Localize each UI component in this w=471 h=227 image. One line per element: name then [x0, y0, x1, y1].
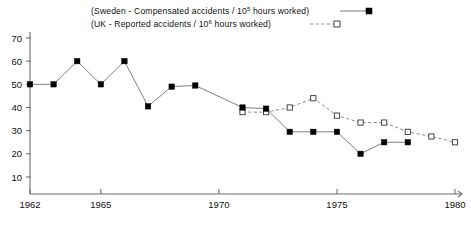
data-point-marker — [334, 129, 339, 134]
data-point-marker — [429, 134, 434, 139]
data-point-marker — [382, 120, 387, 125]
data-point-marker — [51, 82, 56, 87]
chart-legend: (Sweden - Compensated accidents / 105 ho… — [91, 6, 372, 29]
data-point-marker — [122, 58, 127, 63]
legend-uk-marker-sample — [334, 21, 340, 27]
data-point-marker — [287, 105, 292, 110]
data-point-marker — [169, 84, 174, 89]
y-tick-label: 70 — [11, 33, 22, 44]
data-point-marker — [145, 104, 150, 109]
series-uk — [240, 96, 458, 145]
x-tick-label: 1965 — [90, 199, 111, 210]
data-point-marker — [98, 82, 103, 87]
data-point-marker — [358, 151, 363, 156]
chart-page: (Sweden - Compensated accidents / 105 ho… — [0, 0, 471, 227]
legend-sweden-marker-sample — [366, 8, 372, 14]
y-tick-label: 10 — [11, 172, 22, 183]
accident-rate-line-chart: (Sweden - Compensated accidents / 105 ho… — [0, 0, 471, 227]
data-point-marker — [358, 120, 363, 125]
series-line — [243, 98, 456, 142]
legend-sweden-prefix: (Sweden - Compensated accidents / 10 — [91, 6, 247, 16]
x-tick-label: 1980 — [444, 199, 465, 210]
data-point-marker — [27, 82, 32, 87]
y-axis-ticks: 10203040506070 — [11, 33, 31, 183]
x-tick-label: 1975 — [326, 199, 347, 210]
data-point-marker — [75, 58, 80, 63]
y-tick-label: 20 — [11, 148, 22, 159]
data-point-marker — [240, 105, 245, 110]
series-sweden — [27, 58, 410, 156]
data-point-marker — [405, 129, 410, 134]
data-point-marker — [334, 113, 339, 118]
chart-axes — [30, 32, 462, 197]
data-point-marker — [193, 83, 198, 88]
data-point-marker — [452, 140, 457, 145]
legend-sweden-suffix: hours worked) — [250, 6, 309, 16]
data-point-marker — [311, 129, 316, 134]
y-tick-label: 60 — [11, 56, 22, 67]
series-line — [30, 61, 408, 154]
x-tick-label: 1962 — [19, 199, 40, 210]
legend-uk-suffix: hours worked) — [212, 19, 271, 29]
data-point-marker — [311, 96, 316, 101]
data-point-marker — [263, 106, 268, 111]
data-point-marker — [381, 140, 386, 145]
y-tick-label: 50 — [11, 79, 22, 90]
x-axis-ticks: 19621965197019751980 — [19, 189, 465, 210]
data-point-marker — [405, 140, 410, 145]
legend-entry-sweden-text: (Sweden - Compensated accidents / 105 ho… — [91, 6, 309, 16]
legend-entry-uk-text: (UK - Reported accidents / 106 hours wor… — [91, 19, 271, 29]
legend-uk-prefix: (UK - Reported accidents / 10 — [91, 19, 209, 29]
data-point-marker — [287, 129, 292, 134]
x-tick-label: 1970 — [208, 199, 229, 210]
y-tick-label: 40 — [11, 102, 22, 113]
y-tick-label: 30 — [11, 125, 22, 136]
